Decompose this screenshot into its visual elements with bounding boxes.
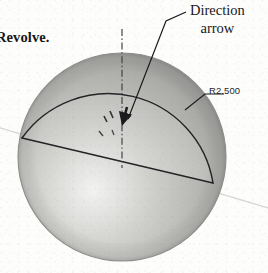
revolve-caption: Revolve. <box>0 29 50 45</box>
radius-dimension-label: R2.500 <box>209 86 240 97</box>
callout-line-2: arrow <box>190 19 245 37</box>
direction-arrow-callout: Direction arrow <box>190 1 245 37</box>
callout-line-1: Direction <box>190 2 245 18</box>
figure-canvas: Revolve. Direction arrow R2.500 <box>0 0 268 273</box>
